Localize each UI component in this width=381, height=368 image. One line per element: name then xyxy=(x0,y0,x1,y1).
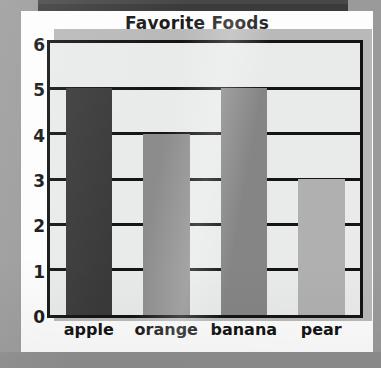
y-tick-label-2: 2 xyxy=(23,218,45,235)
bar-orange xyxy=(143,134,190,315)
x-tick-label-apple: apple xyxy=(50,320,128,339)
y-tick-label-5: 5 xyxy=(23,82,45,99)
x-tick-label-orange: orange xyxy=(128,320,206,339)
x-tick-label-pear: pear xyxy=(283,320,361,339)
bar-banana xyxy=(221,88,268,315)
y-tick-label-0: 0 xyxy=(23,309,45,326)
y-tick-label-1: 1 xyxy=(23,264,45,281)
y-tick-label-4: 4 xyxy=(23,128,45,145)
plot-inner xyxy=(50,43,360,315)
y-tick-label-6: 6 xyxy=(23,37,45,54)
y-tick-label-3: 3 xyxy=(23,173,45,190)
bar-apple xyxy=(66,88,113,315)
y-axis: 0123456 xyxy=(21,40,45,318)
page-bottom-strip xyxy=(0,352,381,368)
scanned-page: Favorite Foods 0123456 appleorangebanana… xyxy=(0,0,381,368)
chart-card: Favorite Foods 0123456 appleorangebanana… xyxy=(21,11,373,352)
plot-area xyxy=(47,40,363,318)
x-tick-label-banana: banana xyxy=(205,320,283,339)
x-axis: appleorangebananapear xyxy=(47,320,363,346)
bar-pear xyxy=(298,179,345,315)
